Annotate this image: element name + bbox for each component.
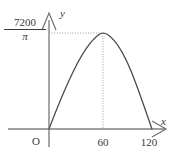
x-axis-label: x	[161, 116, 166, 127]
y-tick-label-peak: 7200 π	[4, 17, 46, 42]
x-tick-label-120: 120	[136, 137, 162, 148]
data-curve	[49, 33, 152, 129]
chart-figure: y x O 60 120 7200 π	[0, 0, 175, 168]
peak-label-numerator: 7200	[4, 17, 46, 30]
x-tick-label-60: 60	[93, 137, 113, 148]
peak-label-denominator: π	[4, 30, 46, 42]
y-axis-label: y	[60, 8, 65, 19]
origin-tick-label: O	[30, 136, 42, 147]
